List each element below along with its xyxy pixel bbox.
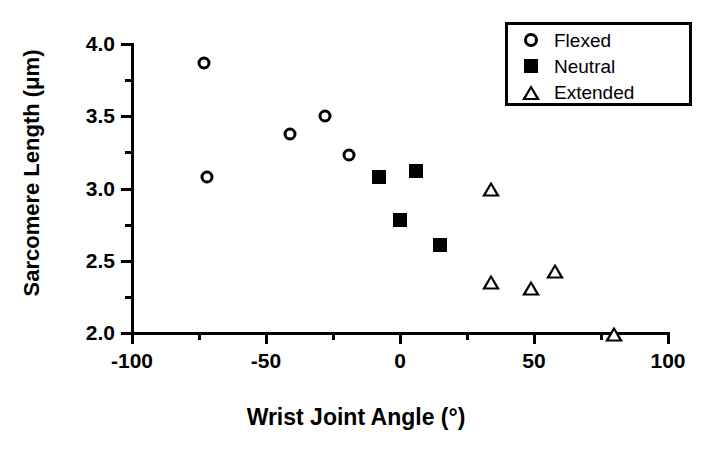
data-point-flexed <box>201 170 214 183</box>
data-point-flexed <box>343 149 356 162</box>
data-point-neutral <box>433 238 447 252</box>
x-tick-label: -50 <box>221 350 311 371</box>
data-point-extended <box>546 264 564 279</box>
data-point-extended <box>482 274 500 289</box>
x-tick-major <box>399 333 402 344</box>
y-tick-label: 3.0 <box>55 178 115 199</box>
data-point-neutral <box>372 170 386 184</box>
y-tick-major <box>121 115 132 118</box>
x-tick-minor <box>198 333 201 340</box>
x-tick-minor <box>600 333 603 340</box>
data-point-extended <box>482 181 500 196</box>
x-tick-major <box>265 333 268 344</box>
y-tick-minor <box>125 79 132 82</box>
legend-marker-filled-square-icon <box>508 59 554 73</box>
x-tick-label: -100 <box>87 350 177 371</box>
x-tick-major <box>533 333 536 344</box>
y-tick-major <box>121 188 132 191</box>
legend-item-flexed: Flexed <box>508 27 689 53</box>
data-point-neutral <box>409 164 423 178</box>
y-tick-major <box>121 260 132 263</box>
scatter-plot-figure: 2.02.53.03.54.0-100-50050100 Sarcomere L… <box>0 0 712 455</box>
x-tick-minor <box>466 333 469 340</box>
y-tick-minor <box>125 224 132 227</box>
data-point-flexed <box>198 56 211 69</box>
legend-item-label: Flexed <box>554 31 611 50</box>
legend-item-neutral: Neutral <box>508 53 689 79</box>
x-tick-major <box>667 333 670 344</box>
y-axis-title: Sarcomere Length (μm) <box>19 23 45 323</box>
x-tick-label: 50 <box>489 350 579 371</box>
legend-marker-open-triangle-icon <box>508 85 554 100</box>
data-point-extended <box>605 326 623 341</box>
y-tick-minor <box>125 151 132 154</box>
legend-item-label: Extended <box>554 83 634 102</box>
data-point-neutral <box>393 213 407 227</box>
data-point-flexed <box>318 110 331 123</box>
y-tick-label: 4.0 <box>55 33 115 54</box>
legend: FlexedNeutralExtended <box>505 22 692 106</box>
legend-marker-open-circle-icon <box>508 33 554 47</box>
data-point-flexed <box>284 127 297 140</box>
y-tick-minor <box>125 296 132 299</box>
y-tick-label: 2.5 <box>55 250 115 271</box>
y-tick-label: 2.0 <box>55 322 115 343</box>
x-axis-title: Wrist Joint Angle (°) <box>0 404 712 431</box>
x-tick-label: 0 <box>355 350 445 371</box>
x-tick-major <box>131 333 134 344</box>
y-tick-major <box>121 43 132 46</box>
legend-item-label: Neutral <box>554 57 615 76</box>
x-tick-minor <box>332 333 335 340</box>
legend-item-extended: Extended <box>508 79 689 105</box>
data-point-extended <box>522 280 540 295</box>
y-tick-label: 3.5 <box>55 105 115 126</box>
x-tick-label: 100 <box>623 350 712 371</box>
